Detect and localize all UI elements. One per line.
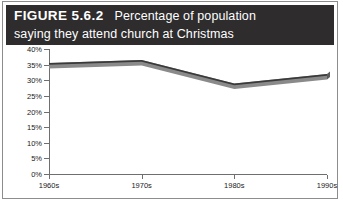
figure-caption-bar: FIGURE 5.6.2Percentage of population say… — [6, 5, 334, 45]
figure-number-label: FIGURE 5.6.2 — [14, 8, 104, 23]
caption-text-line-1: Percentage of population — [115, 9, 256, 23]
plot-area: 0%5%10%15%20%25%30%35%40% 1960s1970s1980… — [6, 47, 334, 195]
series-ribbon — [49, 60, 330, 89]
series-ribbon-end-cap — [327, 72, 330, 80]
caption-line-2: saying they attend church at Christmas — [14, 25, 334, 43]
caption-line-1: FIGURE 5.6.2Percentage of population — [14, 7, 334, 25]
figure-container: FIGURE 5.6.2Percentage of population say… — [0, 0, 343, 203]
series-ribbon-body — [49, 60, 327, 89]
series-line-chart — [6, 47, 334, 195]
